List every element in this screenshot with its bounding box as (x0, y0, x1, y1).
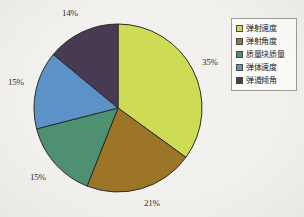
legend-item-4[interactable]: 弹道倾角 (236, 74, 293, 87)
legend-item-0[interactable]: 弹射速度 (236, 22, 293, 35)
legend-swatch-icon-0 (236, 25, 243, 32)
legend-item-3[interactable]: 弹体速度 (236, 61, 293, 74)
pie-chart-figure: 14% 35% 21% 15% 15% 弹射速度 弹射角度 质量块质量 弹体速度… (0, 0, 304, 217)
legend-label-3: 弹体速度 (246, 63, 277, 73)
legend-swatch-icon-3 (236, 64, 243, 71)
legend-label-2: 质量块质量 (246, 50, 285, 60)
legend-swatch-icon-4 (236, 77, 243, 84)
legend-swatch-icon-1 (236, 38, 243, 45)
pie-value-label-lower-left: 15% (30, 172, 46, 182)
legend-swatch-icon-2 (236, 51, 243, 58)
pie-slices (34, 24, 202, 192)
legend-label-0: 弹射速度 (246, 24, 277, 34)
pie-chart-area (33, 23, 203, 193)
legend-item-2[interactable]: 质量块质量 (236, 48, 293, 61)
pie-value-label-bottom: 21% (144, 198, 160, 208)
legend-item-1[interactable]: 弹射角度 (236, 35, 293, 48)
chart-legend: 弹射速度 弹射角度 质量块质量 弹体速度 弹道倾角 (231, 18, 297, 91)
pie-value-label-top: 14% (62, 8, 78, 18)
pie-value-label-upper-left: 15% (8, 77, 24, 87)
pie-svg (33, 23, 203, 193)
legend-label-4: 弹道倾角 (246, 76, 277, 86)
pie-value-label-right: 35% (202, 57, 218, 67)
legend-label-1: 弹射角度 (246, 37, 277, 47)
